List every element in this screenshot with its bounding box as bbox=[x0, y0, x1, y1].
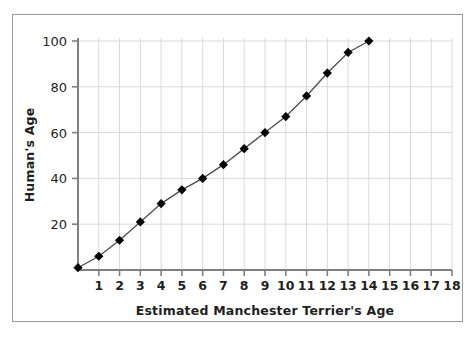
x-tick-label: 5 bbox=[178, 278, 187, 293]
x-tick-label: 8 bbox=[240, 278, 249, 293]
x-tick-label: 4 bbox=[157, 278, 166, 293]
x-tick-label: 17 bbox=[423, 278, 440, 293]
x-tick-label: 16 bbox=[402, 278, 420, 293]
x-tick-label: 18 bbox=[443, 278, 460, 293]
data-point-marker bbox=[198, 174, 207, 183]
x-tick-label: 6 bbox=[198, 278, 207, 293]
x-axis-title: Estimated Manchester Terrier's Age bbox=[136, 303, 395, 318]
y-tick-label: 40 bbox=[50, 171, 67, 186]
x-tick-label: 12 bbox=[319, 278, 336, 293]
x-tick-label: 13 bbox=[339, 278, 356, 293]
data-point-marker bbox=[177, 185, 186, 194]
x-tick-label: 9 bbox=[261, 278, 270, 293]
x-tick-label: 11 bbox=[298, 278, 315, 293]
y-tick-label: 100 bbox=[42, 34, 67, 49]
x-tick-label: 15 bbox=[381, 278, 398, 293]
x-tick-label: 2 bbox=[115, 278, 124, 293]
chart-figure: 20406080100 123456789101112131415161718 … bbox=[0, 0, 476, 339]
x-axis-tick-labels: 123456789101112131415161718 bbox=[94, 278, 460, 293]
x-tick-label: 14 bbox=[360, 278, 378, 293]
vertical-gridlines bbox=[99, 38, 452, 270]
y-axis-tick-labels: 20406080100 bbox=[42, 34, 67, 232]
x-tick-label: 1 bbox=[94, 278, 103, 293]
y-tick-label: 80 bbox=[50, 80, 67, 95]
y-tick-label: 20 bbox=[50, 217, 67, 232]
y-tick-label: 60 bbox=[50, 126, 67, 141]
chart-canvas: 20406080100 123456789101112131415161718 … bbox=[0, 0, 476, 339]
x-tick-label: 7 bbox=[219, 278, 228, 293]
data-point-marker bbox=[364, 36, 373, 45]
y-axis-title: Human's Age bbox=[22, 108, 37, 203]
x-tick-label: 10 bbox=[277, 278, 295, 293]
x-tick-label: 3 bbox=[136, 278, 145, 293]
